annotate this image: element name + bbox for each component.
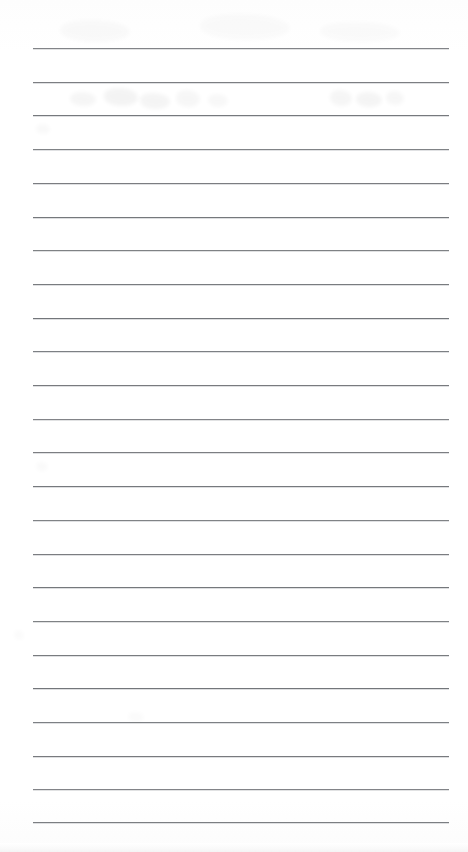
ruled-line (33, 284, 449, 285)
ruled-line (33, 520, 449, 521)
ruled-line (33, 452, 449, 453)
ruled-line (33, 115, 449, 116)
ruled-line (33, 385, 449, 386)
ruled-line (33, 217, 449, 218)
ruled-line (33, 756, 449, 757)
ruled-line (33, 822, 449, 823)
ruled-lines-layer (0, 0, 468, 852)
ruled-line (33, 419, 449, 420)
ruled-line (33, 688, 449, 689)
scanned-page (0, 0, 468, 852)
ruled-line (33, 250, 449, 251)
ruled-line (33, 655, 449, 656)
ruled-line (33, 149, 449, 150)
ruled-line (33, 722, 449, 723)
ruled-line (33, 48, 449, 49)
ruled-line (33, 587, 449, 588)
ruled-line (33, 82, 449, 83)
ruled-line (33, 789, 449, 790)
ruled-line (33, 351, 449, 352)
ruled-line (33, 486, 449, 487)
ruled-line (33, 183, 449, 184)
ruled-line (33, 554, 449, 555)
ruled-line (33, 621, 449, 622)
ruled-line (33, 318, 449, 319)
